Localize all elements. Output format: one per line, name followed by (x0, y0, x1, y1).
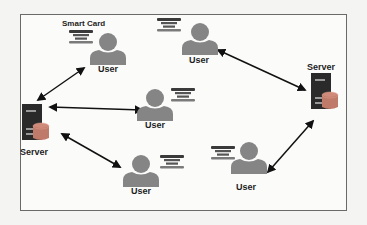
arrow-server-left-to-user-bottom-center (62, 134, 120, 167)
arrow-server-left-to-user-center (50, 107, 142, 110)
user-label-bottom-center: User (131, 186, 151, 196)
user-icon-top-left (90, 33, 126, 65)
user-label-top-center: User (189, 55, 209, 65)
smart-card-icon-top-left (69, 30, 93, 44)
user-label-center: User (145, 120, 165, 130)
server-label-right: Server (307, 62, 335, 72)
smart-card-icon-bottom-center (160, 155, 184, 169)
arrow-server-right-to-user-bottom-right (268, 121, 313, 172)
user-icon-center (137, 89, 173, 121)
server-icon-right (311, 73, 338, 109)
network-diagram (0, 0, 367, 225)
arrow-server-left-to-user-top-left (38, 68, 84, 100)
smart-card-title-label: Smart Card (62, 19, 105, 28)
server-icon-left (22, 104, 49, 140)
user-icon-top-center (182, 23, 218, 55)
arrow-server-right-to-user-top-center (218, 50, 305, 90)
user-icon-bottom-center (123, 155, 159, 187)
smart-card-icon-top-center (157, 18, 181, 32)
smart-card-icon-center (171, 88, 195, 102)
user-label-top-left: User (98, 64, 118, 74)
user-label-bottom-right: User (236, 182, 256, 192)
smart-card-icon-bottom-right (211, 146, 235, 160)
user-icon-bottom-right (231, 142, 267, 174)
connection-arrows (38, 50, 313, 172)
server-label-left: Server (20, 147, 48, 157)
